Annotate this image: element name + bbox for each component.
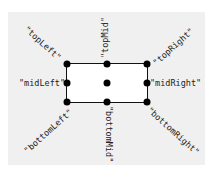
cropped-header-text — [0, 0, 213, 4]
anchor-dot-topMid — [104, 61, 111, 68]
anchor-dot-bottomMid — [104, 99, 111, 106]
anchor-dot-bottomLeft — [64, 99, 71, 106]
label-topMid: "topMid" — [100, 17, 110, 58]
anchor-dot-topLeft — [64, 61, 71, 68]
label-midRight: "midRight" — [150, 78, 201, 88]
label-bottomMid: "bottomMid" — [104, 106, 114, 162]
anchor-dot-bottomRight — [144, 99, 151, 106]
anchor-dot-topRight — [144, 61, 151, 68]
label-midLeft: "midLeft" — [19, 78, 65, 88]
anchor-dot-center — [104, 80, 111, 87]
